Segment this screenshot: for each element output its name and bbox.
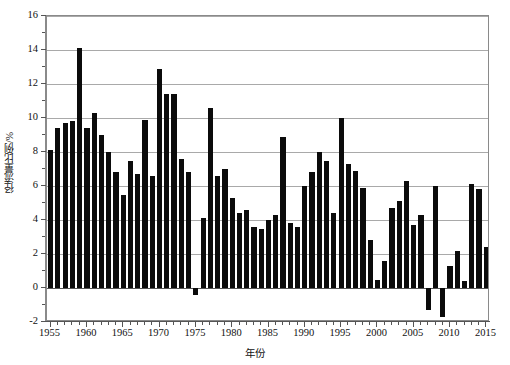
x-tick-minor: [246, 322, 247, 325]
x-tick-minor: [239, 322, 240, 325]
y-axis-line: [45, 15, 46, 322]
x-tick-minor: [427, 322, 428, 325]
y-tick: [41, 253, 46, 254]
bar: [375, 280, 380, 289]
x-tick-label: 2000: [356, 327, 396, 339]
x-tick-minor: [478, 322, 479, 325]
bar: [201, 218, 206, 288]
bar: [164, 94, 169, 288]
x-tick-minor: [144, 322, 145, 325]
bar: [179, 159, 184, 288]
x-tick-label: 1965: [102, 327, 142, 339]
x-tick-minor: [173, 322, 174, 325]
bar: [55, 128, 60, 288]
x-tick-minor: [326, 322, 327, 325]
bar: [121, 195, 126, 289]
bar: [237, 213, 242, 288]
y-tick-label: -2: [2, 315, 38, 326]
bar: [193, 288, 198, 295]
bar: [411, 225, 416, 288]
x-tick-minor: [209, 322, 210, 325]
bar: [63, 123, 68, 288]
y-tick-minor: [42, 202, 45, 203]
x-tick-minor: [347, 322, 348, 325]
bar: [171, 94, 176, 288]
bar: [433, 186, 438, 288]
x-tick-minor: [464, 322, 465, 325]
bar: [382, 261, 387, 288]
x-tick-minor: [224, 322, 225, 325]
x-tick-minor: [275, 322, 276, 325]
x-tick-minor: [442, 322, 443, 325]
x-axis-title: 年份: [0, 345, 510, 360]
x-tick-minor: [137, 322, 138, 325]
bar: [309, 172, 314, 288]
bar: [397, 201, 402, 288]
bar: [128, 161, 133, 289]
x-tick-label: 1970: [139, 327, 179, 339]
x-tick-label: 1955: [30, 327, 70, 339]
x-tick-label: 1975: [175, 327, 215, 339]
y-tick-minor: [42, 32, 45, 33]
y-tick-minor: [42, 168, 45, 169]
bar: [455, 251, 460, 288]
bar: [324, 161, 329, 289]
bar: [106, 152, 111, 288]
x-tick-minor: [115, 322, 116, 325]
x-tick-minor: [384, 322, 385, 325]
y-tick-label: 4: [2, 213, 38, 224]
bar: [142, 120, 147, 288]
bar: [302, 186, 307, 288]
x-tick-minor: [79, 322, 80, 325]
x-tick-minor: [180, 322, 181, 325]
bar: [135, 174, 140, 288]
y-tick-label: 12: [2, 77, 38, 88]
bar: [346, 164, 351, 288]
x-tick-minor: [420, 322, 421, 325]
x-tick-minor: [260, 322, 261, 325]
y-tick-minor: [42, 270, 45, 271]
x-tick-label: 1985: [248, 327, 288, 339]
y-tick: [41, 49, 46, 50]
x-tick-minor: [101, 322, 102, 325]
bar: [251, 227, 256, 288]
bar: [208, 108, 213, 288]
x-tick-minor: [57, 322, 58, 325]
x-tick-minor: [217, 322, 218, 325]
x-tick-minor: [93, 322, 94, 325]
bar: [215, 176, 220, 288]
y-axis-title: 径流量比例/%: [4, 132, 16, 193]
bar: [331, 213, 336, 288]
y-tick-label: 14: [2, 43, 38, 54]
x-tick-minor: [71, 322, 72, 325]
x-tick-minor: [166, 322, 167, 325]
bar: [77, 48, 82, 288]
bar: [84, 128, 89, 288]
bar: [360, 188, 365, 288]
x-tick-minor: [108, 322, 109, 325]
x-tick-minor: [289, 322, 290, 325]
y-tick-minor: [42, 304, 45, 305]
bar: [113, 172, 118, 288]
y-tick-label: 16: [2, 9, 38, 20]
bar: [150, 176, 155, 288]
x-tick-label: 1980: [211, 327, 251, 339]
y-tick-label: 0: [2, 281, 38, 292]
x-tick-minor: [311, 322, 312, 325]
x-tick-minor: [406, 322, 407, 325]
bar: [288, 223, 293, 288]
y-tick: [41, 117, 46, 118]
bar: [426, 288, 431, 310]
bar: [230, 198, 235, 288]
y-tick-label: 10: [2, 111, 38, 122]
bar: [339, 118, 344, 288]
x-tick-minor: [318, 322, 319, 325]
bar-series: [47, 16, 488, 320]
y-tick: [41, 83, 46, 84]
bar: [244, 210, 249, 288]
y-tick: [41, 151, 46, 152]
bar: [484, 247, 489, 288]
bar: [266, 220, 271, 288]
bar: [48, 150, 53, 288]
x-tick-label: 1960: [66, 327, 106, 339]
